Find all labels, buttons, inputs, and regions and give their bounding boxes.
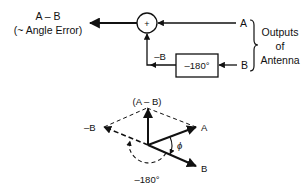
vector-a-label: A xyxy=(201,122,208,133)
inverted-b-label: –B xyxy=(154,51,166,62)
summer-plus-symbol: + xyxy=(144,19,149,29)
input-a-label: A xyxy=(240,17,247,29)
dashed-edge-negb-to-diff xyxy=(104,108,147,127)
phase-angle-arc xyxy=(170,137,172,154)
phase-angle-label: ϕ xyxy=(177,140,182,151)
output-label-line2: (~ Angle Error) xyxy=(14,24,83,36)
vector-difference-label: (A – B) xyxy=(132,96,161,107)
vector-neg-b xyxy=(104,127,148,145)
output-label-line1: A – B xyxy=(35,10,60,22)
phasor-diagram: –B (A – B) A B ϕ –180° xyxy=(84,96,208,185)
dashed-edge-diff-to-a xyxy=(147,108,196,127)
group-label-line2: of xyxy=(276,40,285,52)
rotation-label: –180° xyxy=(135,174,160,185)
inverted-b-arrowhead xyxy=(150,62,156,68)
group-label-line1: Outputs xyxy=(262,26,299,38)
group-label-line3: Antenna xyxy=(260,54,299,66)
vector-neg-b-label: –B xyxy=(84,122,96,133)
phase-shifter-label: –180° xyxy=(185,60,210,71)
input-b-label: B xyxy=(241,59,248,71)
antenna-outputs-brace xyxy=(250,20,258,71)
monopulse-difference-diagram: A – B (~ Angle Error) + A B –180° –B Out… xyxy=(0,0,306,193)
vector-b-label: B xyxy=(201,163,207,174)
block-diagram: A – B (~ Angle Error) + A B –180° –B Out… xyxy=(14,10,300,77)
